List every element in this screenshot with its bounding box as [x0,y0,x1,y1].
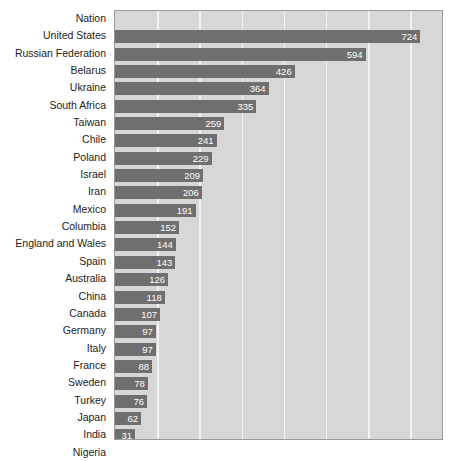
bar-row: 126 [115,271,442,288]
category-label: Italy [0,340,110,357]
category-label: Australia [0,270,110,287]
bar-row: 62 [115,410,442,427]
bar-value-label: 76 [115,395,147,408]
bar-value-label: 724 [115,30,420,43]
category-axis-labels: NationUnited StatesRussian FederationBel… [0,10,110,461]
bars-layer: 7245944263643352592412292092061911521441… [115,11,442,439]
bar-row: 143 [115,254,442,271]
category-label: Japan [0,409,110,426]
bar-row: 88 [115,358,442,375]
category-label: England and Wales [0,235,110,252]
bar-value-label: 144 [115,238,176,251]
bar-row: 209 [115,167,442,184]
plot-area: 7245944263643352592412292092061911521441… [114,10,443,440]
bar-row: 78 [115,375,442,392]
category-label: Belarus [0,62,110,79]
category-label: Taiwan [0,114,110,131]
bar-value-label: 143 [115,256,175,269]
category-label: United States [0,27,110,44]
category-label: Canada [0,305,110,322]
bar-value-label: 335 [115,100,256,113]
bar-value-label: 62 [115,412,141,425]
category-label: Turkey [0,392,110,409]
bar-row: 594 [115,46,442,63]
bar-row: 144 [115,236,442,253]
category-label: Ukraine [0,79,110,96]
bar-value-label: 191 [115,204,196,217]
bar-row: 206 [115,184,442,201]
category-label: Russian Federation [0,45,110,62]
category-label: Chile [0,131,110,148]
bar-value-label: 97 [115,325,156,338]
bar-row: 335 [115,98,442,115]
bar-row: 364 [115,80,442,97]
bar-value-label: 594 [115,48,366,61]
bar-value-label: 31 [115,429,135,440]
category-label: Columbia [0,218,110,235]
bar-value-label: 118 [115,291,165,304]
bar-row: 191 [115,202,442,219]
category-label: China [0,288,110,305]
bar-row: 724 [115,28,442,45]
bar-row: 118 [115,289,442,306]
bar-value-label: 126 [115,273,168,286]
category-label: Spain [0,253,110,270]
category-label: France [0,357,110,374]
category-label: India [0,426,110,443]
bar-value-label: 107 [115,308,160,321]
bar-value-label: 88 [115,360,152,373]
category-label: Sweden [0,374,110,391]
category-label: Poland [0,149,110,166]
bar-value-label: 364 [115,82,269,95]
bar-value-label: 206 [115,186,202,199]
bar-value-label: 78 [115,377,148,390]
bar-row: 76 [115,393,442,410]
category-label: Israel [0,166,110,183]
category-label: Iran [0,183,110,200]
bar-value-label: 152 [115,221,179,234]
bar-value-label: 97 [115,343,156,356]
header-row [115,11,442,28]
bar-row: 241 [115,132,442,149]
bar-row: 97 [115,323,442,340]
category-label: South Africa [0,97,110,114]
bar-value-label: 241 [115,134,217,147]
bar-value-label: 426 [115,65,295,78]
bar-value-label: 229 [115,152,212,165]
bar-row: 152 [115,219,442,236]
category-label: Mexico [0,201,110,218]
bar-row: 97 [115,341,442,358]
bar-row: 31 [115,427,442,440]
category-label: Nigeria [0,444,110,461]
bar-value-label: 259 [115,117,224,130]
category-label: Germany [0,322,110,339]
category-header-label: Nation [0,10,110,27]
bar-row: 259 [115,115,442,132]
bar-row: 107 [115,306,442,323]
bar-row: 229 [115,150,442,167]
bar-value-label: 209 [115,169,203,182]
bar-row: 426 [115,63,442,80]
